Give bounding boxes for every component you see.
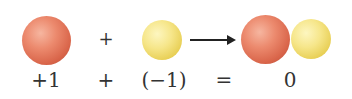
positive-charge-sphere xyxy=(22,16,71,65)
result-zero: 0 xyxy=(284,70,297,90)
negative-charge-sphere xyxy=(142,20,182,60)
plus-operator-top: + xyxy=(98,30,113,48)
right-arrow-icon xyxy=(190,39,228,41)
term-negative-one: (−1) xyxy=(141,70,186,90)
term-positive-one: +1 xyxy=(31,70,60,90)
product-positive-sphere xyxy=(241,15,290,64)
product-negative-sphere xyxy=(291,19,331,59)
charge-diagram: + +1 + (−1) = 0 xyxy=(0,0,352,99)
equals-operator: = xyxy=(216,70,233,90)
plus-operator-bottom: + xyxy=(98,70,115,90)
